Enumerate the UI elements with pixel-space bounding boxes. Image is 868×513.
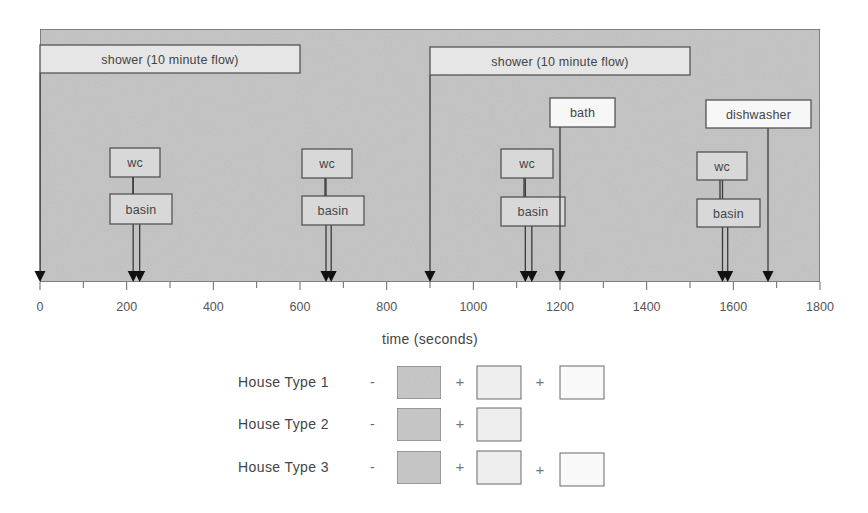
x-axis-tick-label: 1400	[633, 300, 661, 314]
legend-swatch-white	[560, 366, 604, 399]
legend-plus-sign: +	[456, 458, 465, 475]
legend-house-type-label: House Type 1	[238, 374, 329, 390]
event-label-basin: basin	[318, 204, 349, 218]
legend-swatch-light	[477, 451, 521, 484]
legend-swatch-shaded	[397, 366, 441, 399]
x-axis-tick-label: 1000	[459, 300, 487, 314]
legend-plus-sign: +	[536, 373, 545, 390]
legend-house-type-label: House Type 3	[238, 459, 329, 475]
legend-row-house-type-2: House Type 2-+	[238, 408, 521, 441]
legend-dash: -	[370, 374, 375, 390]
legend-swatch-shaded	[397, 451, 441, 484]
legend-plus-sign: +	[536, 461, 545, 478]
x-axis-tick-label: 200	[116, 300, 137, 314]
x-axis-tick-label: 800	[376, 300, 397, 314]
x-axis-tick-label: 1800	[806, 300, 834, 314]
x-axis: 020040060080010001200140016001800	[37, 282, 834, 314]
legend-swatch-light	[477, 408, 521, 441]
water-usage-timeline-diagram: shower (10 minute flow)wcbasinwcbasinsho…	[0, 0, 868, 513]
event-label-shower: shower (10 minute flow)	[491, 55, 628, 69]
event-label-wc: wc	[518, 157, 535, 171]
legend-row-house-type-3: House Type 3-++	[238, 451, 604, 486]
x-axis-tick-label: 400	[203, 300, 224, 314]
house-type-legend: House Type 1-++House Type 2-+House Type …	[238, 366, 604, 486]
x-axis-tick-label: 1200	[546, 300, 574, 314]
event-label-wc: wc	[318, 157, 335, 171]
timeline-svg: shower (10 minute flow)wcbasinwcbasinsho…	[0, 0, 868, 513]
event-label-dishwasher: dishwasher	[726, 108, 791, 122]
legend-dash: -	[370, 459, 375, 475]
x-axis-label: time (seconds)	[382, 331, 478, 347]
legend-swatch-shaded	[397, 408, 441, 441]
event-label-wc: wc	[713, 160, 730, 174]
event-label-wc: wc	[126, 156, 143, 170]
legend-row-house-type-1: House Type 1-++	[238, 366, 604, 399]
event-label-bath: bath	[570, 106, 595, 120]
event-label-basin: basin	[126, 203, 157, 217]
x-axis-tick-label: 600	[290, 300, 311, 314]
legend-plus-sign: +	[456, 415, 465, 432]
legend-house-type-label: House Type 2	[238, 416, 329, 432]
x-axis-tick-label: 0	[37, 300, 44, 314]
event-label-basin: basin	[518, 205, 549, 219]
event-label-shower: shower (10 minute flow)	[101, 53, 238, 67]
legend-plus-sign: +	[456, 373, 465, 390]
legend-swatch-white	[560, 453, 604, 486]
event-label-basin: basin	[713, 207, 744, 221]
legend-dash: -	[370, 416, 375, 432]
x-axis-tick-label: 1600	[719, 300, 747, 314]
legend-swatch-light	[477, 366, 521, 399]
